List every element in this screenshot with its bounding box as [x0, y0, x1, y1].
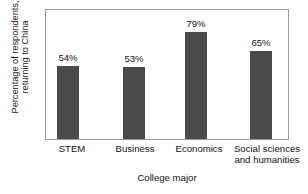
y-axis-title-line-2: returning to China: [20, 21, 30, 94]
x-tick-label-business-line-1: Business: [97, 143, 173, 154]
x-axis-title: College major: [45, 172, 289, 183]
plot-area: 54% 53% 79% 65%: [46, 10, 288, 139]
bar-group-business: 53%: [123, 8, 145, 139]
bar-social-sciences: [250, 51, 272, 139]
x-tick-label-social-sciences-line-2: and humanities: [226, 154, 308, 165]
bar-business: [123, 67, 145, 139]
bar-economics: [185, 32, 207, 139]
bar-value-social-sciences: 65%: [251, 37, 270, 48]
bar-group-economics: 79%: [185, 8, 207, 139]
bar-value-economics: 79%: [186, 18, 205, 29]
bar-stem: [57, 66, 79, 139]
x-tick-label-social-sciences-line-1: Social sciences: [226, 143, 308, 154]
bar-chart-figure: Percentage of respondents, returning to …: [0, 0, 308, 194]
bar-group-stem: 54%: [57, 8, 79, 139]
plot-frame: 54% 53% 79% 65%: [45, 9, 289, 140]
x-tick-label-business: Business: [97, 143, 173, 154]
y-axis-title: Percentage of respondents, returning to …: [3, 0, 37, 122]
bar-group-social-sciences: 65%: [250, 8, 272, 139]
y-axis-title-line-1: Percentage of respondents,: [10, 1, 20, 114]
x-tick-label-economics-line-1: Economics: [163, 143, 235, 154]
x-tick-label-economics: Economics: [163, 143, 235, 154]
x-tick-label-social-sciences: Social sciences and humanities: [226, 143, 308, 166]
bar-value-business: 53%: [124, 53, 143, 64]
bar-value-stem: 54%: [58, 52, 77, 63]
